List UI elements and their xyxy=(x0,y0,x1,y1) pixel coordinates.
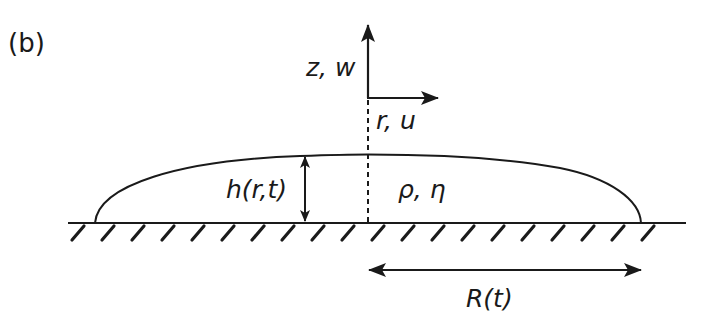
z-axis-label: z, w xyxy=(305,53,356,82)
coordinate-axes xyxy=(367,25,438,98)
substrate xyxy=(68,223,686,240)
substrate-hatching xyxy=(72,226,654,240)
droplet-spreading-diagram: (b) xyxy=(0,0,706,329)
r-axis-label: r, u xyxy=(376,106,416,135)
height-label: h(r,t) xyxy=(226,175,287,204)
radius-label: R(t) xyxy=(466,284,513,313)
panel-label: (b) xyxy=(8,28,45,58)
fluid-properties-label: ρ, η xyxy=(398,175,446,204)
